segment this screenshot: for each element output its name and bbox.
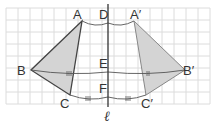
- label-b: B: [17, 63, 26, 78]
- label-a: A: [73, 7, 82, 22]
- label-a-prime: A′: [130, 7, 142, 22]
- label-d: D: [99, 7, 108, 22]
- axis-label-l: ℓ: [104, 109, 110, 124]
- label-c: C: [60, 96, 69, 111]
- label-f: F: [99, 81, 107, 96]
- label-b-prime: B′: [183, 63, 195, 78]
- label-e: E: [99, 56, 108, 71]
- label-c-prime: C′: [141, 96, 153, 111]
